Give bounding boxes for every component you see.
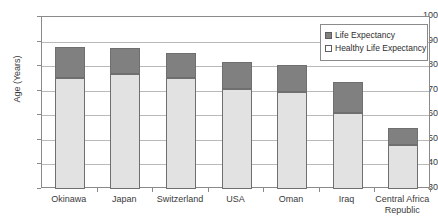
x-axis-category-label: Iraq <box>319 194 375 205</box>
bar-segment-life-expectancy <box>388 128 418 145</box>
bar-segment-healthy-life-expectancy <box>333 113 363 189</box>
y-axis-tick-mark <box>37 188 41 189</box>
legend-item-healthy-life-expectancy: Healthy Life Expectancy <box>325 43 423 53</box>
bar-group <box>55 47 85 189</box>
x-axis-tick-mark <box>430 188 431 192</box>
bar-segment-life-expectancy <box>222 62 252 89</box>
bar-group <box>222 62 252 189</box>
bar-group <box>388 128 418 189</box>
bar-segment-healthy-life-expectancy <box>55 78 85 189</box>
bar-segment-healthy-life-expectancy <box>388 145 418 189</box>
bar-group <box>110 48 140 189</box>
y-axis-title: Age (Years) <box>12 24 22 134</box>
x-axis-tick-mark <box>152 188 153 192</box>
x-axis-category-label: Oman <box>263 194 319 205</box>
stacked-bar-chart: Age (Years) 10090807060504030 OkinawaJap… <box>0 0 438 223</box>
bar-segment-healthy-life-expectancy <box>110 74 140 189</box>
light-swatch-icon <box>325 45 332 52</box>
legend-item-label: Healthy Life Expectancy <box>335 43 426 53</box>
x-axis-category-label: USA <box>208 194 264 205</box>
legend-item-life-expectancy: Life Expectancy <box>325 30 423 40</box>
bar-segment-life-expectancy <box>333 82 363 113</box>
x-axis-tick-mark <box>263 188 264 192</box>
bar-group <box>166 53 196 189</box>
bar-segment-life-expectancy <box>277 65 307 92</box>
bar-group <box>277 65 307 189</box>
chart-legend: Life Expectancy Healthy Life Expectancy <box>320 24 428 61</box>
bar-segment-life-expectancy <box>110 48 140 74</box>
x-axis-tick-mark <box>374 188 375 192</box>
legend-item-label: Life Expectancy <box>335 30 395 40</box>
x-axis-tick-mark <box>97 188 98 192</box>
bar-group <box>333 82 363 189</box>
bar-segment-healthy-life-expectancy <box>277 92 307 189</box>
bar-segment-life-expectancy <box>55 47 85 78</box>
x-axis-category-label: Switzerland <box>152 194 208 205</box>
x-axis-category-label: Okinawa <box>41 194 97 205</box>
x-axis-category-label: Japan <box>97 194 153 205</box>
x-axis-tick-mark <box>319 188 320 192</box>
bar-segment-life-expectancy <box>166 53 196 79</box>
dark-gray-swatch-icon <box>325 32 332 39</box>
x-axis-tick-mark <box>208 188 209 192</box>
x-axis-category-label: Central Africa Republic <box>374 194 430 216</box>
bar-segment-healthy-life-expectancy <box>222 89 252 189</box>
bar-segment-healthy-life-expectancy <box>166 78 196 189</box>
